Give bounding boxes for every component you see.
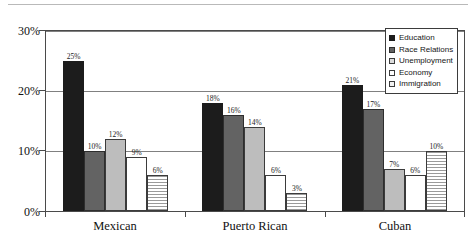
bar: 25% <box>63 61 84 211</box>
bar-value-label: 14% <box>248 118 262 127</box>
bar-value-label: 10% <box>429 142 443 151</box>
legend-swatch-icon <box>389 47 395 53</box>
x-tick-mark-0 <box>45 212 46 217</box>
bar: 6% <box>147 175 168 211</box>
legend-label: Race Relations <box>399 46 453 54</box>
bar-value-label: 3% <box>292 184 302 193</box>
bar-value-label: 16% <box>227 106 241 115</box>
chart-legend: EducationRace RelationsUnemploymentEcono… <box>385 28 458 94</box>
bar-value-label: 10% <box>88 142 102 151</box>
bar-group: 18%16%14%6%3% <box>185 31 324 211</box>
bar-value-label: 6% <box>153 166 163 175</box>
legend-swatch-icon <box>389 35 395 41</box>
x-tick-mark-3 <box>464 212 465 217</box>
legend-swatch-icon <box>389 70 395 76</box>
y-tick-label-30: 30% <box>2 24 40 39</box>
legend-item[interactable]: Unemployment <box>389 56 453 67</box>
bar-value-label: 12% <box>109 130 123 139</box>
bar-value-label: 6% <box>410 166 420 175</box>
bar-value-label: 17% <box>366 100 380 109</box>
legend-label: Unemployment <box>399 57 453 65</box>
legend-label: Immigration <box>399 80 441 88</box>
bar: 3% <box>286 193 307 211</box>
bar-value-label: 21% <box>345 76 359 85</box>
legend-item[interactable]: Education <box>389 33 453 44</box>
legend-label: Education <box>399 34 435 42</box>
x-category-label-puerto-rican: Puerto Rican <box>185 219 325 234</box>
bar-value-label: 9% <box>132 148 142 157</box>
bar: 10% <box>426 151 447 211</box>
bar-value-label: 25% <box>67 52 81 61</box>
bar-value-label: 18% <box>206 94 220 103</box>
bar: 14% <box>244 127 265 211</box>
bar: 9% <box>126 157 147 211</box>
bar-value-label: 7% <box>389 160 399 169</box>
legend-swatch-icon <box>389 81 395 87</box>
bar-group: 25%10%12%9%6% <box>46 31 185 211</box>
bar: 21% <box>342 85 363 211</box>
bar: 12% <box>105 139 126 211</box>
y-tick-label-10: 10% <box>2 144 40 159</box>
legend-item[interactable]: Economy <box>389 67 453 78</box>
x-category-label-cuban: Cuban <box>325 219 465 234</box>
bar: 18% <box>202 103 223 211</box>
legend-label: Economy <box>399 69 432 77</box>
x-axis-line <box>45 211 465 212</box>
legend-item[interactable]: Race Relations <box>389 44 453 55</box>
x-category-label-mexican: Mexican <box>45 219 185 234</box>
y-tick-label-20: 20% <box>2 84 40 99</box>
grouped-bar-chart: 30% 20% 10% 0% 25%10%12%9%6%18%16%14%6%3… <box>0 0 476 246</box>
bar: 6% <box>265 175 286 211</box>
bar-value-label: 6% <box>271 166 281 175</box>
bar: 6% <box>405 175 426 211</box>
bar: 7% <box>384 169 405 211</box>
legend-swatch-icon <box>389 58 395 64</box>
bar: 10% <box>84 151 105 211</box>
y-tick-label-0: 0% <box>2 205 40 220</box>
x-tick-mark-1 <box>185 212 186 217</box>
x-tick-mark-2 <box>325 212 326 217</box>
bar: 17% <box>363 109 384 211</box>
bar: 16% <box>223 115 244 211</box>
legend-item[interactable]: Immigration <box>389 79 453 90</box>
